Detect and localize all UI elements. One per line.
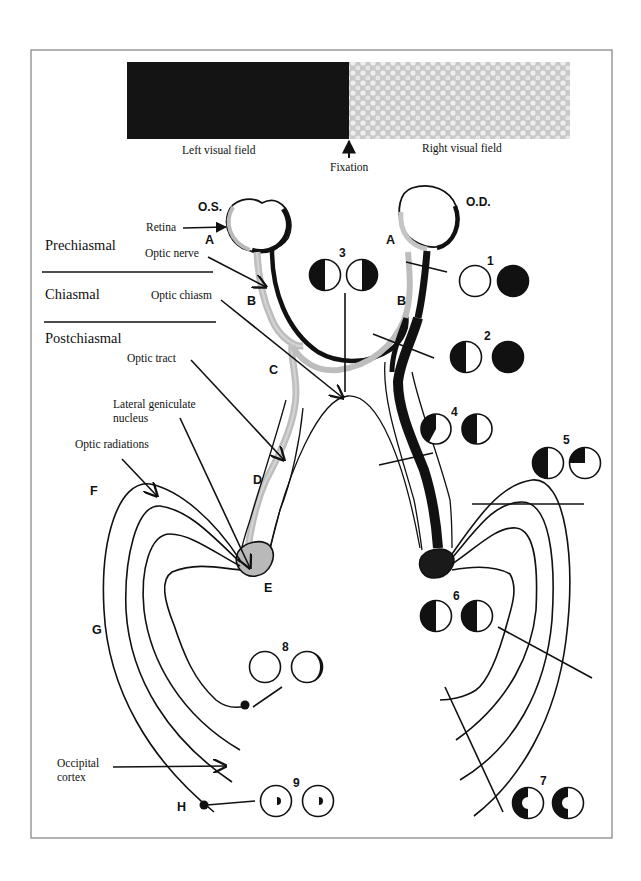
field-8-od [292,652,323,683]
lesion-number-1: 1 [487,254,494,268]
field-4-os [421,414,451,444]
field-6-od [462,601,493,632]
label-retina: Retina [146,221,176,233]
field-3-od [347,260,378,291]
lesion-number-4: 4 [451,405,458,419]
lesion-number-5: 5 [563,433,570,447]
segment-letter-f: F [90,484,98,498]
field-2-od [493,342,524,373]
segment-letter-b-left: B [247,294,256,308]
field-9-os [261,786,292,817]
segment-letter-d: D [253,473,262,487]
segment-letter-a-right: A [386,233,395,247]
segment-letter-b-right: B [397,294,406,308]
section-chiasmal: Chiasmal [45,286,100,302]
segment-letter-c: C [269,363,278,377]
left-visual-field-block [127,62,349,139]
lesion-number-8: 8 [282,640,289,654]
od-label: O.D. [466,195,491,209]
lesion-number-3: 3 [339,246,346,260]
section-prechiasmal: Prechiasmal [45,237,116,253]
occipital-cortex-arrow-icon [113,766,226,767]
right-visual-field-label: Right visual field [422,142,502,155]
field-5-os [533,448,564,479]
label-optic-tract: Optic tract [127,352,177,365]
field-7-od [553,788,584,819]
segment-letter-e: E [264,581,272,595]
lesion-number-2: 2 [484,329,491,343]
field-6-os [421,601,452,632]
label-occipital-line2: cortex [57,771,86,783]
visual-pathway-figure: Left visual field Right visual field Fix… [0,0,641,881]
lesion-number-9: 9 [293,776,300,790]
fixation-label: Fixation [330,161,369,173]
left-visual-field-label: Left visual field [182,144,256,156]
field-2-os [451,342,482,373]
field-1-od [498,266,529,297]
segment-letter-g: G [92,623,102,637]
section-postchiasmal: Postchiasmal [45,330,122,346]
retina-arrow-icon [183,227,226,228]
os-label: O.S. [198,200,222,214]
field-1-os [460,266,491,297]
segment-letter-h: H [177,800,186,814]
segment-letter-a-left: A [205,233,214,247]
field-7-os [513,788,544,819]
field-8-os [250,652,281,683]
lesion-number-7: 7 [540,774,547,788]
field-5-od [570,448,601,479]
field-9-od [303,786,334,817]
label-optic-radiations: Optic radiations [75,438,149,451]
label-lgn-line1: Lateral geniculate [113,398,196,411]
right-visual-field-block [349,62,570,139]
field-3-os [310,260,341,291]
field-4-od [462,414,492,444]
label-lgn-line2: nucleus [113,412,149,424]
label-occipital-line1: Occipital [57,757,99,770]
lesion-number-6: 6 [453,589,460,603]
label-optic-chiasm: Optic chiasm [151,289,212,302]
label-optic-nerve: Optic nerve [145,247,199,260]
